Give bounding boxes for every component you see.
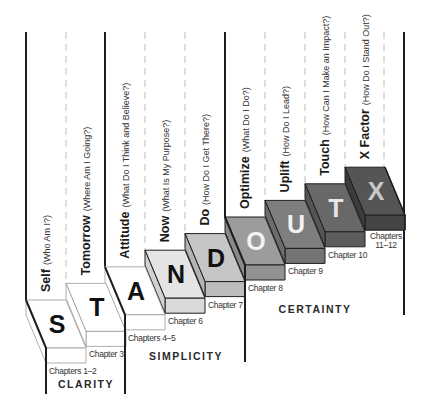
- chapter-label: Chapter 6: [168, 316, 203, 326]
- step-word: Touch: [318, 139, 332, 176]
- column-label-now: Now(What Is My Purpose?): [158, 120, 172, 242]
- step-question: (What Do I Do?): [241, 87, 251, 152]
- column-label-attitude: Attitude(What Do I Think and Believe?): [118, 83, 132, 259]
- chapter-label: Chapters11–12: [370, 231, 402, 250]
- column-label-optimize: Optimize(What Do I Do?): [238, 87, 252, 209]
- phase-label-certainty: CERTAINTY: [279, 303, 352, 315]
- step-word: Self: [39, 268, 53, 292]
- step-question: (How Do I Stand Out?): [361, 14, 371, 105]
- step-letter: S: [49, 310, 66, 338]
- column-label-touch: Touch(How Can I Make an Impact?): [318, 16, 332, 176]
- column-label-do: Do(How Do I Get There?): [198, 114, 212, 226]
- step-front-face: [245, 265, 285, 280]
- column-label-uplift: Uplift(How Do I Lead?): [278, 86, 292, 192]
- step-front-face: [86, 331, 126, 346]
- step-word: Uplift: [278, 160, 292, 193]
- step-letter: X: [368, 177, 385, 205]
- step-question: (How Do I Get There?): [201, 114, 211, 205]
- step-word: Now: [158, 216, 172, 243]
- step-letter: U: [287, 210, 305, 238]
- chapter-label: Chapters 1–2: [49, 366, 97, 376]
- step-letter: N: [167, 260, 185, 288]
- phase-label-simplicity: SIMPLICITY: [149, 350, 223, 362]
- phase-label-clarity: CLARITY: [58, 378, 114, 390]
- chapter-label: Chapter 10: [328, 250, 368, 260]
- step-word: X Factor: [358, 109, 372, 159]
- step-question: (How Can I Make an Impact?): [321, 16, 331, 136]
- step-question: (Where Am I Going?): [82, 127, 92, 212]
- step-front-face: [205, 282, 245, 297]
- step-word: Optimize: [238, 156, 252, 209]
- column-label-self: Self(Who Am I?): [39, 215, 53, 292]
- step-word: Attitude: [118, 212, 132, 259]
- step-front-face: [125, 315, 165, 330]
- step-word: Do: [198, 209, 212, 226]
- chapter-label: Chapter 9: [288, 266, 323, 276]
- step-front-face: [325, 232, 365, 247]
- step-word: Tomorrow: [79, 215, 93, 275]
- step-question: (How Do I Lead?): [281, 86, 291, 157]
- staircase-svg: Self(Who Am I?)Tomorrow(Where Am I Going…: [0, 0, 428, 419]
- step-question: (What Do I Think and Believe?): [121, 83, 131, 208]
- step-question: (What Is My Purpose?): [161, 120, 171, 212]
- step-letter: O: [246, 227, 265, 255]
- step-front-face: [285, 248, 325, 263]
- chapter-label: Chapter 7: [208, 300, 243, 310]
- chapter-label: Chapter 3: [89, 349, 124, 359]
- step-letter: A: [127, 277, 145, 305]
- step-front-face: [165, 298, 205, 313]
- column-label-x-factor: X Factor(How Do I Stand Out?): [358, 14, 372, 159]
- step-front-face: [46, 348, 86, 363]
- column-label-tomorrow: Tomorrow(Where Am I Going?): [79, 127, 93, 276]
- chapter-label: Chapter 8: [248, 283, 283, 293]
- chapter-label: Chapters 4–5: [128, 333, 176, 343]
- standout-staircase-diagram: Self(Who Am I?)Tomorrow(Where Am I Going…: [0, 0, 428, 419]
- step-question: (Who Am I?): [42, 215, 52, 265]
- step-front-face: [365, 215, 405, 230]
- step-letter: T: [328, 194, 343, 222]
- step-letter: T: [89, 293, 104, 321]
- step-letter: D: [207, 244, 225, 272]
